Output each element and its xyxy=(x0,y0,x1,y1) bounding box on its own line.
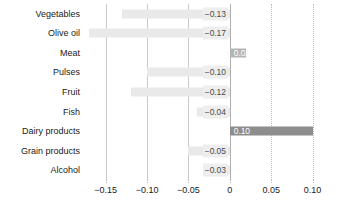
y-axis-category-labels: VegetablesOlive oilMeatPulsesFruitFishDa… xyxy=(0,4,80,180)
horizontal-bar-chart: VegetablesOlive oilMeatPulsesFruitFishDa… xyxy=(0,0,350,211)
x-tick-mark xyxy=(106,180,107,183)
y-axis-label-fruit: Fruit xyxy=(0,87,80,98)
bar-row: −0.04 xyxy=(85,102,325,122)
bar-row: −0.10 xyxy=(85,63,325,83)
y-axis-label-olive-oil: Olive oil xyxy=(0,28,80,39)
bar-value-label: −0.05 xyxy=(203,144,228,157)
bar-value-label: −0.03 xyxy=(203,164,228,177)
y-axis-label-dairy-products: Dairy products xyxy=(0,126,80,137)
bar-row: −0.17 xyxy=(85,24,325,44)
y-axis-label-pulses: Pulses xyxy=(0,67,80,78)
plot-area: −0.13−0.170.02−0.10−0.12−0.040.10−0.05−0… xyxy=(85,4,325,180)
bar-row: −0.03 xyxy=(85,160,325,180)
bar-value-label: 0.10 xyxy=(232,125,252,138)
x-axis: −0.15−0.10−0.0500.050.10 xyxy=(85,180,325,206)
x-tick-mark xyxy=(313,180,314,183)
y-axis-label-vegetables: Vegetables xyxy=(0,8,80,19)
y-axis-label-fish: Fish xyxy=(0,106,80,117)
x-tick-label: −0.15 xyxy=(94,184,117,196)
x-tick-label: 0 xyxy=(227,184,232,196)
y-axis-label-grain-products: Grain products xyxy=(0,145,80,156)
x-tick-label: −0.10 xyxy=(136,184,159,196)
x-tick-mark xyxy=(147,180,148,183)
bar-row: −0.12 xyxy=(85,82,325,102)
x-tick-mark xyxy=(271,180,272,183)
bar-value-label: −0.10 xyxy=(203,66,228,79)
x-tick-label: 0.10 xyxy=(304,184,322,196)
x-tick-label: 0.05 xyxy=(262,184,280,196)
bar-value-label: −0.17 xyxy=(203,27,228,40)
bar-row: −0.13 xyxy=(85,4,325,24)
x-tick-mark xyxy=(230,180,231,183)
bar-row: 0.02 xyxy=(85,43,325,63)
bar-value-label: −0.04 xyxy=(203,105,228,118)
bar-value-label: −0.13 xyxy=(203,7,228,20)
y-axis-label-alcohol: Alcohol xyxy=(0,165,80,176)
bar-value-label: 0.02 xyxy=(232,46,252,59)
bar-row: −0.05 xyxy=(85,141,325,161)
y-axis-label-meat: Meat xyxy=(0,47,80,58)
x-tick-label: −0.05 xyxy=(177,184,200,196)
x-tick-mark xyxy=(188,180,189,183)
bar-row: 0.10 xyxy=(85,121,325,141)
bar-value-label: −0.12 xyxy=(203,85,228,98)
